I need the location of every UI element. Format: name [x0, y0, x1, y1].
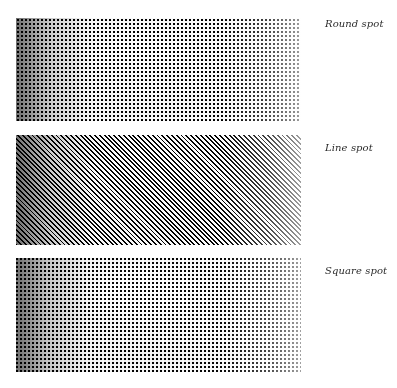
halftone-image-round: [16, 18, 301, 121]
panel-label-square-spot: Square spot: [325, 265, 387, 277]
panel-line-spot: [16, 135, 301, 245]
halftone-image-square: [16, 258, 301, 372]
panel-label-line-spot: Line spot: [325, 142, 373, 154]
panel-round-spot: [16, 18, 301, 121]
halftone-image-line: [16, 135, 301, 245]
panel-square-spot: [16, 258, 301, 372]
panel-label-round-spot: Round spot: [325, 18, 384, 30]
halftone-comparison-figure: Round spot Line spot Square spot: [0, 0, 397, 388]
